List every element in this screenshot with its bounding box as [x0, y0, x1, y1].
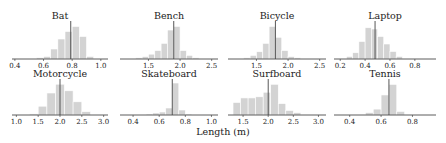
panel-title: Tennis	[369, 68, 400, 79]
histogram-bar	[256, 52, 262, 59]
histogram-bar	[167, 30, 173, 59]
histogram-bar	[73, 102, 82, 115]
histogram-bar	[159, 112, 166, 115]
histogram-bar	[233, 102, 241, 115]
x-tick-label: 0.8	[407, 118, 418, 126]
histogram-bar	[250, 55, 256, 59]
histogram-panel-surfboard: 1.52.02.53.0Surfboard	[228, 68, 326, 126]
x-tick-label: 0.8	[409, 62, 420, 70]
histogram-bar	[275, 37, 281, 59]
panel-title: Bench	[154, 10, 184, 21]
x-tick-label: 0.2	[335, 62, 346, 70]
x-tick-label: 1.0	[11, 118, 22, 126]
histogram-bar	[172, 83, 179, 115]
x-tick-label: 1.5	[33, 118, 44, 126]
panel-title: Skateboard	[141, 68, 196, 79]
histogram-bar	[286, 110, 294, 115]
histogram-bar	[174, 26, 180, 59]
histogram-bar	[82, 112, 91, 115]
x-tick-label: 3.0	[98, 118, 109, 126]
histogram-panel-tennis: 0.40.60.8Tennis	[334, 68, 436, 126]
histogram-bar	[278, 104, 286, 115]
histogram-bar	[79, 37, 86, 60]
panel-title: Surfboard	[253, 68, 302, 79]
histogram-bar	[38, 106, 47, 115]
histogram-panel-skateboard: 0.40.60.81.0Skateboard	[120, 68, 218, 126]
panel-title: Laptop	[368, 10, 402, 21]
x-tick-label: 2.5	[288, 118, 299, 126]
histogram-grid-figure: 0.40.60.81.0Bat1.52.02.5Bench1.52.02.5Bi…	[0, 0, 446, 143]
x-tick-label: 2.0	[263, 118, 274, 126]
histogram-bar	[371, 29, 377, 59]
x-axis-label: Length (m)	[196, 126, 250, 137]
histogram-bar	[179, 110, 186, 115]
x-tick-label: 0.6	[154, 118, 166, 126]
histogram-bar	[155, 51, 161, 59]
histogram-bar	[263, 43, 269, 59]
panel-title: Bicycle	[260, 10, 295, 21]
histogram-bar	[241, 98, 249, 115]
panel-title: Bat	[52, 10, 69, 21]
histogram-bar	[271, 84, 279, 115]
histogram-bar	[263, 92, 271, 115]
x-tick-label: 0.6	[376, 118, 388, 126]
histogram-panel-motorcycle: 1.01.52.02.53.0Motorcycle	[11, 68, 109, 126]
histogram-bar	[166, 108, 173, 115]
histogram-bar	[359, 42, 365, 60]
x-tick-label: 0.4	[9, 62, 21, 70]
histogram-bar	[384, 44, 390, 59]
histogram-bar	[161, 43, 167, 59]
histogram-bar	[373, 109, 381, 115]
histogram-panel-bicycle: 1.52.02.5Bicycle	[228, 10, 326, 70]
histogram-panel-bat: 0.40.60.81.0Bat	[9, 10, 108, 70]
x-tick-label: 1.0	[95, 62, 106, 70]
x-tick-label: 2.0	[54, 118, 65, 126]
histogram-bar	[389, 84, 397, 115]
x-tick-label: 2.5	[206, 62, 217, 70]
histogram-panel-bench: 1.52.02.5Bench	[120, 10, 218, 70]
x-tick-label: 1.5	[238, 118, 249, 126]
panel-title: Motorcycle	[33, 68, 88, 79]
histogram-panel-laptop: 0.20.40.60.8Laptop	[334, 10, 436, 70]
histogram-bar	[248, 98, 256, 115]
histogram-bar	[72, 27, 79, 60]
histogram-bar	[353, 53, 359, 59]
x-tick-label: 1.0	[206, 118, 217, 126]
histogram-bar	[381, 95, 389, 115]
histogram-bar	[282, 51, 288, 59]
histogram-bar	[390, 52, 396, 60]
histogram-bar	[186, 55, 192, 59]
histogram-bar	[269, 26, 275, 59]
histogram-bar	[148, 54, 154, 59]
histogram-bar	[365, 28, 371, 59]
x-tick-label: 0.8	[180, 118, 191, 126]
x-tick-label: 3.0	[313, 118, 324, 126]
histogram-bar	[51, 49, 58, 59]
histogram-bar	[180, 51, 186, 59]
histogram-bar	[256, 97, 264, 115]
histogram-bar	[47, 93, 56, 115]
x-tick-label: 2.5	[76, 118, 87, 126]
histogram-bar	[58, 39, 65, 59]
histogram-bar	[397, 111, 405, 115]
x-tick-label: 0.4	[127, 118, 139, 126]
histogram-bar	[378, 37, 384, 60]
x-tick-label: 0.4	[344, 118, 356, 126]
histogram-bar	[64, 91, 73, 115]
x-tick-label: 2.5	[314, 62, 325, 70]
